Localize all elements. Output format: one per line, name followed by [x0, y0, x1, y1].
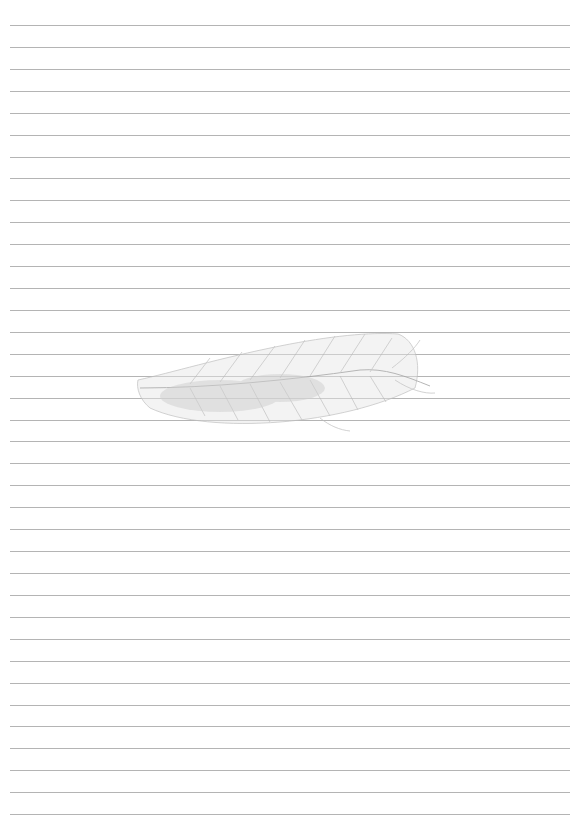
ruled-line [10, 157, 570, 158]
ruled-line [10, 726, 570, 727]
ruled-line [10, 551, 570, 552]
ruled-line [10, 244, 570, 245]
ruled-line [10, 770, 570, 771]
ruled-line [10, 69, 570, 70]
ruled-line [10, 573, 570, 574]
ruled-line [10, 683, 570, 684]
ruled-line [10, 266, 570, 267]
ruled-line [10, 748, 570, 749]
ruled-line [10, 617, 570, 618]
ruled-line [10, 91, 570, 92]
ruled-line [10, 288, 570, 289]
ruled-line [10, 222, 570, 223]
ruled-line [10, 485, 570, 486]
ruled-line [10, 463, 570, 464]
lined-paper-page [0, 0, 585, 823]
ruled-line [10, 814, 570, 815]
ruled-line [10, 792, 570, 793]
ruled-line [10, 441, 570, 442]
feather-icon [130, 318, 450, 438]
ruled-line [10, 507, 570, 508]
ruled-line [10, 113, 570, 114]
ruled-line [10, 529, 570, 530]
ruled-line [10, 705, 570, 706]
ruled-line [10, 200, 570, 201]
ruled-line [10, 47, 570, 48]
ruled-line [10, 310, 570, 311]
ruled-line [10, 661, 570, 662]
ruled-line [10, 135, 570, 136]
ruled-line [10, 25, 570, 26]
ruled-line [10, 639, 570, 640]
ruled-line [10, 595, 570, 596]
ruled-line [10, 178, 570, 179]
